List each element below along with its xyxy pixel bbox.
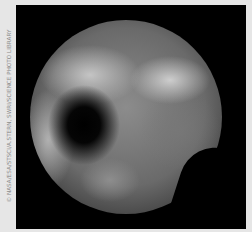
photo-credit-text: © NASA/ESA/STSCI/A.STERN, SWRI/SCIENCE P… [6,29,12,202]
photo-frame [16,5,246,229]
photo-credit: © NASA/ESA/STSCI/A.STERN, SWRI/SCIENCE P… [2,5,15,227]
